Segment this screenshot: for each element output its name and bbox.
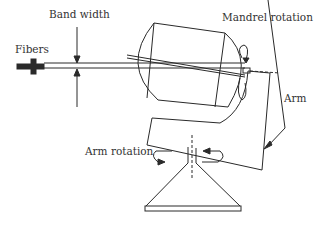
band-width-label: Band width: [49, 9, 110, 20]
arm-rotation-label: Arm rotation: [85, 146, 153, 157]
arm-label: Arm: [284, 93, 307, 104]
winding-machine-drawing: [0, 0, 320, 229]
fibers-label: Fibers: [15, 44, 49, 55]
diagram-canvas: Band width Fibers Mandrel rotation Arm A…: [0, 0, 320, 229]
mandrel-rotation-label: Mandrel rotation: [222, 12, 313, 23]
mandrel: [138, 23, 241, 107]
base: [145, 163, 241, 211]
fiber-band: [44, 55, 245, 77]
arm: [147, 71, 270, 170]
fiber-feed-head: [17, 59, 44, 74]
pedestal-post: [188, 135, 196, 180]
band-width-arrows: [74, 27, 80, 107]
